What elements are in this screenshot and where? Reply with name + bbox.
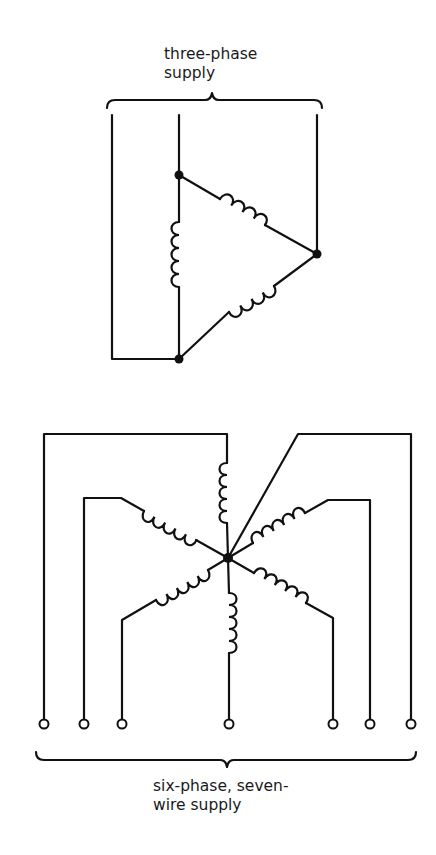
- six-phase-label-line2: wire supply: [153, 796, 289, 815]
- transformer-diagram: [0, 0, 436, 855]
- coil-icon: [140, 511, 197, 547]
- coil-icon: [172, 222, 180, 287]
- terminal-2: [80, 720, 89, 729]
- delta-winding-top-lead: [265, 225, 317, 254]
- junction-node: [175, 171, 184, 180]
- star-center-node: [223, 553, 233, 563]
- junction-node: [313, 250, 322, 259]
- coil-icon: [156, 570, 212, 607]
- three-phase-section: [107, 93, 322, 364]
- coil-icon: [254, 566, 310, 603]
- coil-icon: [220, 463, 228, 523]
- coil-icon: [229, 593, 237, 653]
- star-winding-1-lead: [227, 523, 228, 558]
- star-lead-6: [228, 558, 229, 593]
- star-lead-3: [84, 498, 144, 724]
- terminal-3: [118, 720, 127, 729]
- coil-icon: [220, 192, 269, 225]
- terminal-5: [329, 720, 338, 729]
- terminal-7: [407, 720, 416, 729]
- six-phase-brace: [36, 752, 416, 767]
- three-phase-label-line2: supply: [164, 64, 257, 83]
- delta-winding-top: [179, 175, 220, 199]
- supply-line-1: [112, 115, 179, 359]
- star-winding-7-lead: [306, 603, 333, 724]
- star-winding-3-lead: [196, 540, 228, 558]
- terminal-6: [366, 720, 375, 729]
- delta-winding-bottom-lead: [179, 312, 229, 359]
- six-phase-label-line1: six-phase, seven-: [153, 777, 289, 796]
- six-phase-section: [36, 434, 416, 767]
- terminal-neutral: [225, 720, 234, 729]
- three-phase-label-line1: three-phase: [164, 45, 257, 64]
- three-phase-brace: [107, 93, 322, 108]
- star-winding-4-lead: [305, 500, 370, 724]
- terminal-1: [40, 720, 49, 729]
- junction-node: [175, 355, 184, 364]
- star-lead-2: [228, 434, 411, 724]
- three-phase-label: three-phase supply: [164, 45, 257, 83]
- coil-icon: [249, 506, 305, 543]
- coil-icon: [229, 286, 278, 319]
- six-phase-label: six-phase, seven- wire supply: [153, 777, 289, 815]
- star-winding-5-lead: [122, 600, 156, 724]
- delta-winding-bottom: [274, 254, 317, 286]
